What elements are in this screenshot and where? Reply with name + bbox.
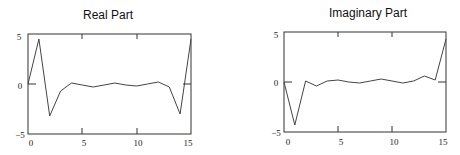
x-tick-label: 0 xyxy=(29,138,34,148)
x-tick-label: 15 xyxy=(439,137,449,147)
x-tick-label: 15 xyxy=(184,138,194,148)
imaginary-part-chart: Imaginary Part 5 0 −5 0 5 10 15 xyxy=(230,0,460,155)
x-tick-label: 10 xyxy=(390,137,400,147)
x-tick-label: 5 xyxy=(339,137,344,147)
real-part-chart: Real Part 5 0 −5 0 5 10 15 xyxy=(0,0,230,155)
x-tick-label: 0 xyxy=(286,137,291,147)
chart-title: Imaginary Part xyxy=(329,6,408,20)
data-line xyxy=(284,39,446,125)
y-tick-label: 5 xyxy=(17,32,22,42)
y-tick-label: 5 xyxy=(274,30,279,40)
imaginary-part-plot: Imaginary Part 5 0 −5 0 5 10 15 xyxy=(230,0,460,155)
data-line xyxy=(28,39,191,116)
y-tick-label: 0 xyxy=(18,81,23,91)
y-tick-label: 0 xyxy=(274,78,279,88)
y-tick-label: −5 xyxy=(271,128,281,138)
x-tick-label: 10 xyxy=(134,138,144,148)
y-tick-label: −5 xyxy=(15,130,25,140)
chart-title: Real Part xyxy=(83,8,134,22)
x-tick-label: 5 xyxy=(82,138,87,148)
real-part-plot: Real Part 5 0 −5 0 5 10 15 xyxy=(0,0,230,155)
